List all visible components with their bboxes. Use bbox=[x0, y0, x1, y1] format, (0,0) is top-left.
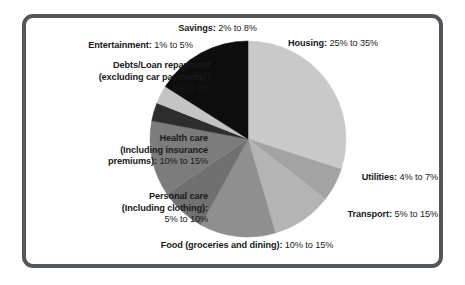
pie-label-personal-care-line1: Personal care bbox=[30, 191, 208, 203]
pie-label-utilities-category: Utilities: bbox=[362, 172, 397, 182]
pie-label-debts-loan-line1: Debts/Loan repayment bbox=[20, 60, 210, 72]
pie-label-food: Food (groceries and dining): 10% to 15% bbox=[128, 240, 366, 252]
pie-label-entertainment-category: Entertainment: bbox=[88, 40, 151, 50]
pie-label-entertainment: Entertainment: 1% to 5% bbox=[48, 40, 233, 52]
pie-label-food-value: 10% to 15% bbox=[282, 240, 333, 250]
pie-label-entertainment-value: 1% to 5% bbox=[152, 40, 193, 50]
pie-label-utilities: Utilities: 4% to 7% bbox=[318, 172, 438, 184]
pie-label-health-care-value: 10% to 15% bbox=[157, 156, 208, 166]
pie-label-transport-value: 5% to 15% bbox=[392, 209, 438, 219]
pie-label-transport: Transport: 5% to 15% bbox=[310, 209, 438, 221]
pie-label-health-care-line3: premiums): 10% to 15% bbox=[10, 156, 208, 168]
pie-label-housing-category: Housing: bbox=[288, 38, 327, 48]
pie-label-health-care-line1: Health care bbox=[10, 133, 208, 145]
pie-label-transport-category: Transport: bbox=[348, 209, 392, 219]
pie-label-health-care-category-end: premiums): bbox=[108, 156, 157, 166]
pie-label-personal-care: Personal care (Including clothing): 5% t… bbox=[30, 191, 208, 226]
pie-label-housing-value: 25% to 35% bbox=[327, 38, 378, 48]
pie-label-debts-loan-value: 1% to 5% bbox=[20, 83, 210, 95]
pie-label-personal-care-value: 5% to 10% bbox=[30, 214, 208, 226]
pie-label-debts-loan-line2: (excluding car payments): bbox=[20, 72, 210, 84]
pie-label-savings-value: 2% to 8% bbox=[216, 23, 257, 33]
pie-label-personal-care-line2: (Including clothing): bbox=[30, 203, 208, 215]
pie-label-savings: Savings: 2% to 8% bbox=[135, 23, 300, 35]
pie-label-food-category: Food (groceries and dining): bbox=[161, 240, 283, 250]
pie-label-debts-loan: Debts/Loan repayment (excluding car paym… bbox=[20, 60, 210, 95]
pie-label-health-care: Health care (Including insurance premium… bbox=[10, 133, 208, 168]
pie-label-housing: Housing: 25% to 35% bbox=[288, 38, 438, 50]
pie-label-health-care-line2: (Including insurance bbox=[10, 145, 208, 157]
pie-label-utilities-value: 4% to 7% bbox=[397, 172, 438, 182]
pie-label-savings-category: Savings: bbox=[178, 23, 216, 33]
